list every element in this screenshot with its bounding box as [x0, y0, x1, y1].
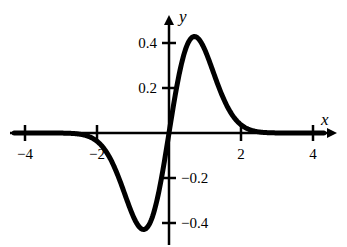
y-axis-label: y — [177, 7, 187, 26]
chart: −4−224 0.40.2−0.2−0.4 x y — [0, 0, 347, 247]
y-tick-label: 0.4 — [138, 35, 157, 51]
x-axis-label: x — [320, 110, 329, 129]
x-tick-label: 4 — [309, 146, 317, 162]
y-tick-label: −0.4 — [181, 215, 209, 231]
y-tick-label: 0.2 — [138, 80, 157, 96]
y-tick-label: −0.2 — [181, 170, 208, 186]
x-tick-label: −4 — [17, 146, 33, 162]
x-tick-label: 2 — [237, 146, 245, 162]
